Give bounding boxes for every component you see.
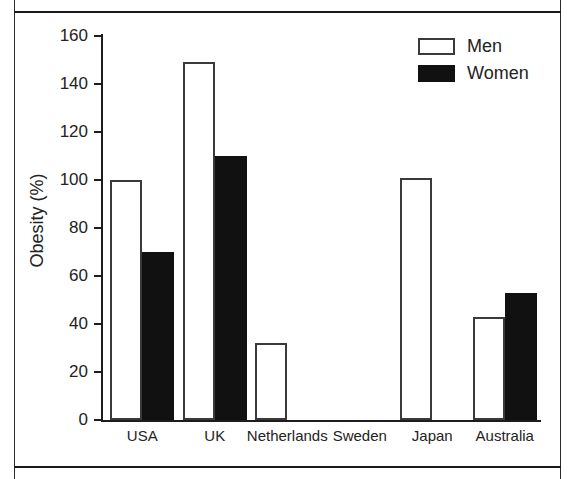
y-axis-tick-label: 80 bbox=[28, 219, 88, 236]
y-axis-tick-label: 40 bbox=[28, 315, 88, 332]
bar-netherlands-men bbox=[255, 343, 287, 420]
legend-swatch-men-icon bbox=[418, 38, 455, 55]
x-axis-line bbox=[101, 420, 541, 422]
y-axis-tick bbox=[94, 371, 102, 373]
x-axis-label-japan: Japan bbox=[412, 427, 453, 444]
y-axis-tick-label: 160 bbox=[28, 27, 88, 44]
x-axis-label-uk: UK bbox=[204, 427, 225, 444]
y-axis-tick bbox=[94, 83, 102, 85]
x-axis-label-australia: Australia bbox=[476, 427, 534, 444]
x-axis-label-netherlands: Netherlands bbox=[247, 427, 328, 444]
figure-page: Obesity (%) 160140120100806040200 USAUKN… bbox=[0, 0, 574, 479]
bar-japan-men bbox=[400, 178, 432, 420]
legend-item-men: Men bbox=[418, 33, 548, 60]
x-axis-label-usa: USA bbox=[127, 427, 158, 444]
legend-label-women: Women bbox=[467, 63, 529, 84]
x-axis-label-sweden: Sweden bbox=[333, 427, 387, 444]
bar-uk-men bbox=[183, 62, 215, 420]
y-axis-tick bbox=[94, 35, 103, 37]
y-axis-tick-label: 120 bbox=[28, 123, 88, 140]
y-axis-tick-label: 0 bbox=[28, 411, 88, 428]
chart-legend: Men Women bbox=[418, 33, 548, 87]
bar-chart-plot-area: Obesity (%) 160140120100806040200 USAUKN… bbox=[0, 0, 574, 479]
bar-australia-men bbox=[473, 317, 505, 420]
y-axis-tick-label: 100 bbox=[28, 171, 88, 188]
legend-swatch-women-icon bbox=[418, 65, 455, 82]
y-axis-tick bbox=[94, 131, 102, 133]
y-axis-tick-label: 140 bbox=[28, 75, 88, 92]
legend-label-men: Men bbox=[467, 36, 502, 57]
bar-australia-women bbox=[505, 293, 537, 420]
y-axis-tick-label: 20 bbox=[28, 363, 88, 380]
bar-usa-women bbox=[142, 252, 174, 420]
y-axis-tick bbox=[94, 227, 102, 229]
y-axis-tick bbox=[94, 179, 102, 181]
y-axis-tick bbox=[94, 275, 102, 277]
y-axis-tick bbox=[94, 419, 103, 421]
legend-item-women: Women bbox=[418, 60, 548, 87]
y-axis-tick-label: 60 bbox=[28, 267, 88, 284]
bar-uk-women bbox=[215, 156, 247, 420]
y-axis-tick bbox=[94, 323, 102, 325]
bar-usa-men bbox=[110, 180, 142, 420]
